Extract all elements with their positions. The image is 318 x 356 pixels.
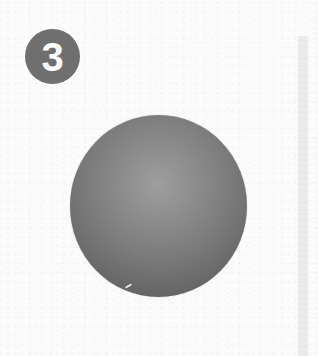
shaded-sphere [70,115,247,297]
step-number-badge: 3 [25,29,80,84]
step-number: 3 [41,37,63,77]
page-edge-bar [298,36,308,356]
